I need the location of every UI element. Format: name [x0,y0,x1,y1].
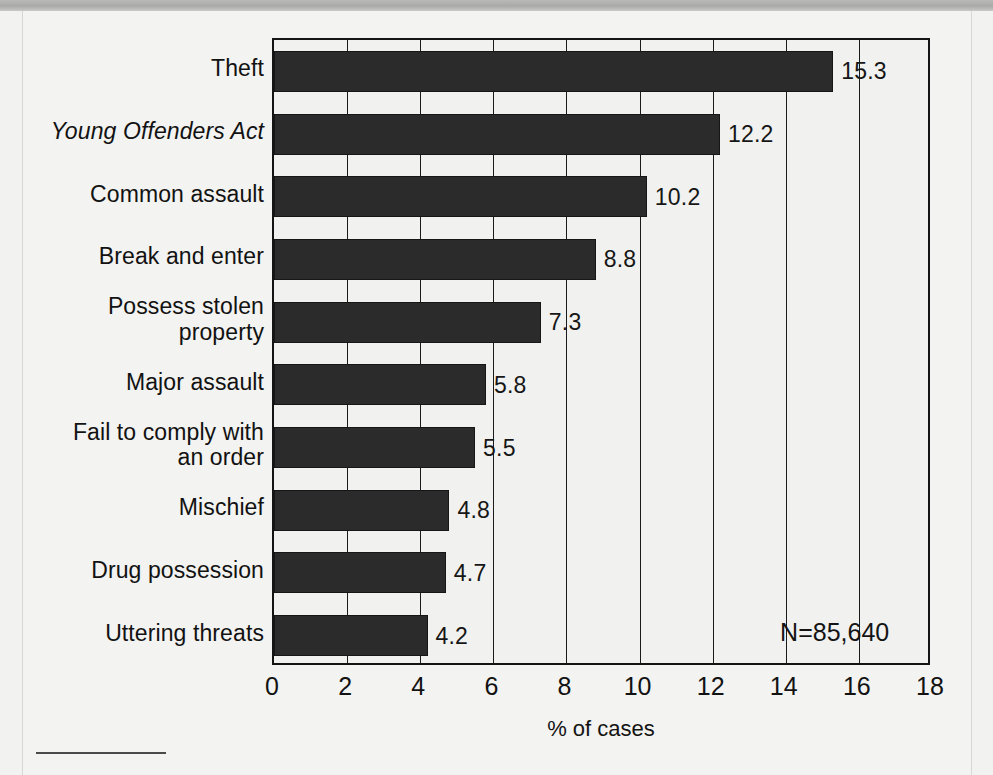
x-tick-label: 6 [484,672,498,701]
x-tick-label: 18 [916,672,944,701]
x-tick-label: 0 [265,672,279,701]
bar-row: 8.8 [274,239,932,280]
category-label-line: Fail to comply with [14,420,264,446]
category-label-line: Break and enter [14,244,264,270]
bar-value-label: 5.5 [483,434,516,461]
scan-top-band [0,0,993,11]
x-tick-label: 14 [770,672,798,701]
category-label-line: Drug possession [14,558,264,584]
bar [274,364,486,405]
x-tick-label: 8 [557,672,571,701]
bar-row: 7.3 [274,302,932,343]
bar [274,552,446,593]
x-tick-label: 2 [338,672,352,701]
sample-size-annotation: N=85,640 [780,618,889,647]
category-label: Mischief [14,495,264,521]
bar-row: 4.7 [274,552,932,593]
category-label-line: Major assault [14,370,264,396]
bar [274,239,596,280]
x-tick-label: 10 [624,672,652,701]
category-label-line: Uttering threats [14,621,264,647]
x-tick-label: 16 [843,672,871,701]
bar-row: 15.3 [274,51,932,92]
category-label: Fail to comply withan order [14,420,264,472]
category-label-line: property [14,320,264,346]
category-label: Major assault [14,370,264,396]
category-label: Drug possession [14,558,264,584]
x-tick-label: 4 [411,672,425,701]
category-axis-labels: TheftYoung Offenders ActCommon assaultBr… [8,38,264,665]
category-label-line: Theft [14,56,264,82]
bar [274,176,647,217]
figure-page: TheftYoung Offenders ActCommon assaultBr… [0,0,993,775]
bar [274,51,833,92]
page-edge-right [971,11,972,775]
bar-value-label: 4.7 [454,559,487,586]
category-label-line: Young Offenders Act [14,119,264,145]
bar-value-label: 4.8 [457,497,490,524]
bar-value-label: 12.2 [728,121,774,148]
bar-value-label: 4.2 [436,622,469,649]
category-label: Theft [14,56,264,82]
x-axis-title: % of cases [272,716,930,742]
bar-value-label: 8.8 [604,246,637,273]
category-label: Common assault [14,182,264,208]
bar [274,615,428,656]
category-label: Possess stolenproperty [14,294,264,346]
bar-row: 10.2 [274,176,932,217]
bar-row: 5.5 [274,427,932,468]
bar-value-label: 7.3 [549,309,582,336]
plot-area: 15.312.210.28.87.35.85.54.84.74.2 [272,38,930,665]
x-axis-tick-labels: 024681012141618 [272,672,930,706]
category-label-line: an order [14,445,264,471]
bar [274,302,541,343]
bar [274,490,449,531]
footer-rule [36,752,166,754]
x-tick-label: 12 [697,672,725,701]
bar-value-label: 10.2 [655,183,701,210]
category-label-line: Mischief [14,495,264,521]
bar-value-label: 15.3 [841,58,887,85]
category-label-line: Possess stolen [14,294,264,320]
bar-row: 4.8 [274,490,932,531]
bar-value-label: 5.8 [494,371,527,398]
bar-row: 5.8 [274,364,932,405]
category-label: Young Offenders Act [14,119,264,145]
bar [274,427,475,468]
category-label-line: Common assault [14,182,264,208]
category-label: Uttering threats [14,621,264,647]
bar-row: 12.2 [274,114,932,155]
bar [274,114,720,155]
category-label: Break and enter [14,244,264,270]
